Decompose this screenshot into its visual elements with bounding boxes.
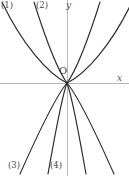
parabola-figure: (1) (2) (3) (4) y x O [0, 0, 129, 176]
curve-label-3: (3) [8, 161, 20, 170]
curve-label-4: (4) [50, 161, 62, 170]
curve-label-2: (2) [36, 1, 48, 10]
x-axis-label: x [117, 74, 122, 83]
origin-label: O [59, 66, 67, 76]
curve-label-1: (1) [1, 1, 13, 10]
y-axis-label: y [66, 1, 71, 10]
figure-canvas [0, 0, 129, 176]
